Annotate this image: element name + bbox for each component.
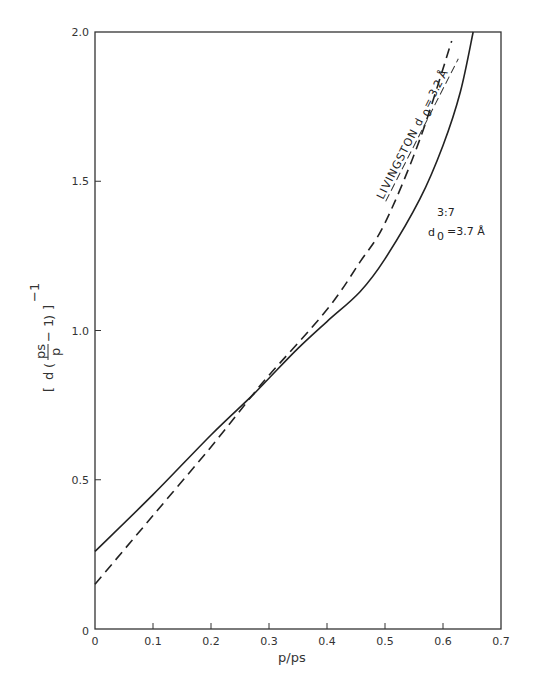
annot-d: d	[428, 226, 435, 239]
y-label-bracket-open: [	[41, 387, 56, 392]
series-3-7-line	[95, 32, 473, 551]
y-tick-label: 0.5	[72, 474, 90, 487]
y-tick-label: 2.0	[72, 26, 90, 39]
plot-frame	[95, 32, 501, 629]
chart-canvas: 00.10.20.30.40.50.60.7 00.51.01.52.0 p/p…	[0, 0, 537, 684]
y-label-p: p	[48, 348, 63, 356]
y-label-paren-close: )	[42, 315, 57, 320]
x-tick-label: 0.6	[434, 635, 452, 648]
x-tick-label: 0	[92, 635, 99, 648]
x-tick-label: 0.3	[260, 635, 278, 648]
x-tick-label: 0.4	[318, 635, 336, 648]
annot-d-value: =3.7 Å	[447, 225, 485, 238]
y-tick-label: 1.5	[72, 175, 90, 188]
y-label-bracket-close: ]	[41, 305, 56, 310]
series-layer	[95, 32, 473, 584]
y-axis-ticks: 00.51.01.52.0	[72, 26, 102, 638]
x-tick-label: 0.5	[376, 635, 394, 648]
y-label-paren-open: (	[42, 363, 57, 368]
y-label-ps: ps	[33, 344, 48, 359]
x-axis-ticks: 00.10.20.30.40.50.60.7	[92, 623, 510, 648]
y-label-exponent: −1	[27, 283, 42, 302]
x-tick-label: 0.7	[492, 635, 510, 648]
series-livingston-line	[95, 41, 452, 584]
y-axis-label: [ d ( ps p − 1 ) ] −1	[27, 283, 63, 392]
x-axis-label: p/ps	[278, 650, 306, 665]
y-tick-label: 1.0	[72, 325, 90, 338]
y-tick-label: 0	[82, 625, 89, 638]
x-tick-label: 0.1	[144, 635, 162, 648]
annot-d-sub: 0	[437, 230, 444, 243]
x-tick-label: 0.2	[202, 635, 220, 648]
annotation-d0: d 0 =3.7 Å	[428, 225, 485, 243]
y-label-minus1: − 1	[41, 319, 56, 342]
y-label-d: d	[41, 372, 56, 380]
annotation-ratio: 3:7	[437, 206, 455, 219]
